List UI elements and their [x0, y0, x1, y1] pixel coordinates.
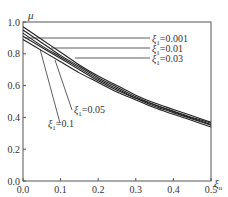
- line-chart: 0.00.10.20.30.40.5 0.00.20.40.60.81.0 μ …: [0, 0, 228, 197]
- y-tick-label: 0.8: [8, 48, 21, 59]
- x-tick-label: 0.4: [167, 184, 180, 195]
- x-tick-label: 0.3: [130, 184, 143, 195]
- x-tick-label: 0.2: [92, 184, 105, 195]
- series-label: ξ1=0.1: [48, 118, 74, 132]
- y-tick-label: 0.2: [8, 144, 21, 155]
- y-tick-label: 1.0: [8, 17, 21, 28]
- x-tick-label: 0.1: [54, 184, 67, 195]
- y-tick-label: 0.4: [8, 112, 21, 123]
- series-label: ξ1=0.05: [74, 104, 105, 118]
- y-axis-title: μ: [27, 9, 34, 21]
- y-tick-label: 0.6: [8, 80, 21, 91]
- y-tick-label: 0.0: [8, 176, 21, 187]
